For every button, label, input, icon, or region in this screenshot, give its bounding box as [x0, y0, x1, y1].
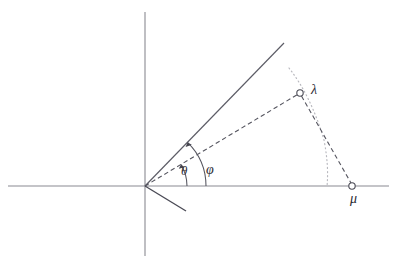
lambda-to-mu-dashed: [302, 96, 352, 183]
diagram-canvas: [0, 0, 397, 270]
lower-solid-ray: [145, 186, 186, 211]
point-lambda-label: λ: [311, 83, 317, 97]
point-lambda-marker: [297, 90, 303, 96]
geometric-diagram-figure: θ φ λ μ: [0, 0, 397, 270]
point-mu-label: μ: [350, 192, 357, 206]
phi-angle-arc: [188, 142, 207, 186]
phi-angle-label: φ: [206, 163, 214, 177]
theta-angle-label: θ: [181, 164, 187, 177]
point-mu-marker: [349, 183, 355, 189]
dotted-arc-lambda-to-axis: [289, 68, 328, 186]
